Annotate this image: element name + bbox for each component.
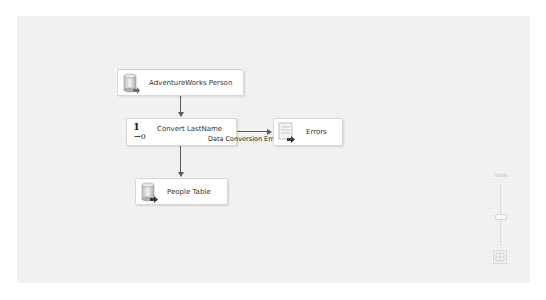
zoom-control: 100% xyxy=(488,170,514,272)
flat-file-destination-icon xyxy=(278,122,296,143)
database-source-icon xyxy=(123,73,141,94)
arrowhead-icon xyxy=(178,112,184,117)
node-label: People Table xyxy=(167,188,211,196)
path-convert-to-destination[interactable] xyxy=(180,146,181,173)
database-destination-icon xyxy=(141,182,159,203)
zoom-to-fit-button[interactable] xyxy=(493,250,507,264)
node-label: Convert LastName xyxy=(157,125,222,133)
data-flow-canvas[interactable] xyxy=(17,16,530,283)
path-source-to-convert[interactable] xyxy=(180,96,181,113)
data-conversion-icon: 1 →0 xyxy=(131,121,151,143)
node-adventureworks-person[interactable]: AdventureWorks Person xyxy=(117,69,244,96)
node-label: AdventureWorks Person xyxy=(149,79,232,87)
node-errors[interactable]: Errors xyxy=(273,118,343,146)
fit-icon xyxy=(494,251,506,263)
node-label: Errors xyxy=(306,128,327,136)
zoom-slider-thumb[interactable] xyxy=(495,214,507,220)
arrowhead-icon xyxy=(267,129,272,135)
arrowhead-icon xyxy=(178,172,184,177)
node-people-table[interactable]: People Table xyxy=(135,178,228,205)
zoom-level-label: 100% xyxy=(488,173,514,178)
path-error-output[interactable] xyxy=(237,131,268,132)
